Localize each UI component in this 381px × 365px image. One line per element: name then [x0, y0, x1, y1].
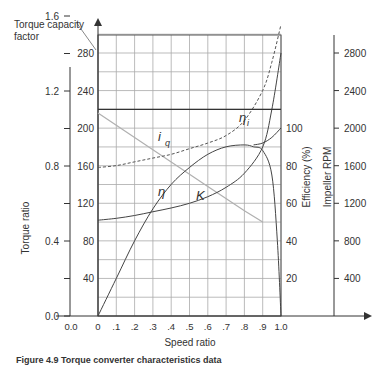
x-tick-label: .7	[222, 321, 230, 332]
tcf-tick-label: 80	[83, 236, 95, 247]
x-tick-label: 1.0	[274, 321, 287, 332]
x-tick-label: .6	[204, 321, 212, 332]
tcf-tick-label: 40	[83, 273, 95, 284]
torque-ratio-tick-label: 0.4	[45, 236, 59, 247]
efficiency-axis-title: Efficiency (%)	[301, 147, 312, 208]
x-tick-label-extra: 0.0	[64, 321, 77, 332]
curve-label-K: K	[196, 188, 206, 203]
tcf-tick-label: 120	[77, 198, 94, 209]
tcf-axis-title-line2: factor	[14, 31, 40, 42]
x-tick-label: .9	[259, 321, 267, 332]
x-tick-label: .1	[112, 321, 120, 332]
rpm-tick-label: 1600	[344, 161, 367, 172]
x-tick-label: .2	[131, 321, 139, 332]
torque-ratio-tick-label: 0.8	[45, 161, 59, 172]
torque-ratio-tick-label: 1.2	[45, 86, 59, 97]
tcf-tick-label: 160	[77, 161, 94, 172]
efficiency-tick-label: 40	[286, 236, 298, 247]
x-tick-label: .3	[149, 321, 157, 332]
tcf-tick-label: 200	[77, 123, 94, 134]
curve-label-eta-i-sub: i	[247, 118, 250, 128]
rpm-tick-label: 400	[344, 273, 361, 284]
efficiency-tick-label: 100	[286, 123, 303, 134]
rpm-tick-label: 2800	[344, 48, 367, 59]
curve-label-eta: η	[158, 184, 165, 199]
torque-converter-chart: 40801201602002402800.00.40.81.21.62.02.2…	[0, 0, 381, 365]
rpm-axis-title: Impeller RPM	[322, 147, 333, 208]
efficiency-tick-label: 60	[286, 198, 298, 209]
x-axis-title: Speed ratio	[164, 337, 216, 348]
x-tick-label: .5	[186, 321, 194, 332]
tcf-tick-label: 240	[77, 86, 94, 97]
x-tick-label: .8	[240, 321, 248, 332]
efficiency-tick-label: 20	[286, 273, 298, 284]
axis-labels: Torque capacity factor Torque ratio Effi…	[14, 19, 333, 348]
figure-caption: Figure 4.9 Torque converter characterist…	[16, 355, 221, 365]
rpm-tick-label: 800	[344, 236, 361, 247]
x-tick-label: 0	[95, 321, 100, 332]
rpm-tick-label: 2000	[344, 123, 367, 134]
rpm-tick-label: 1200	[344, 198, 367, 209]
plot-grid	[98, 34, 281, 316]
curve-label-iq-sub: q	[165, 138, 170, 148]
efficiency-tick-label: 80	[286, 161, 298, 172]
x-tick-label: .4	[167, 321, 175, 332]
curve-label-eta-i: η	[239, 110, 246, 125]
rpm-tick-label: 2400	[344, 86, 367, 97]
tcf-tick-label: 280	[77, 48, 94, 59]
torque-ratio-axis-title: Torque ratio	[20, 201, 31, 254]
curve-label-iq: i	[158, 129, 162, 144]
tcf-axis-title-line1: Torque capacity	[14, 19, 84, 30]
